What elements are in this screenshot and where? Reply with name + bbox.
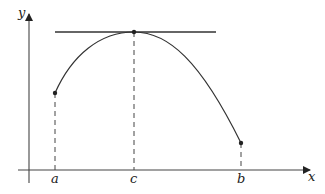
label-c: c — [130, 171, 138, 186]
y-axis-label: y — [17, 5, 26, 20]
x-axis-label: x — [308, 169, 316, 184]
point-b — [239, 141, 243, 145]
label-a: a — [51, 171, 59, 186]
point-a — [53, 91, 57, 95]
point-c — [132, 30, 136, 34]
label-b: b — [237, 171, 245, 186]
function-graph: y x a c b — [0, 0, 325, 194]
function-curve — [55, 32, 241, 143]
